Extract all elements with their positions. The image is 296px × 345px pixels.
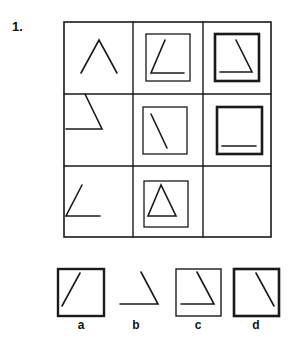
option-d-label: d (246, 318, 266, 332)
cell-r2c3-figure-icon (217, 107, 262, 154)
question-number: 1. (12, 19, 23, 34)
cell-r2c2-figure-icon (143, 107, 187, 154)
option-c-label: c (188, 318, 208, 332)
cell-r1c3-figure-icon (215, 34, 259, 81)
cell-r3c2-figure-icon (144, 181, 188, 227)
cell-r3c1-figure-icon (66, 185, 100, 216)
cell-r1c2-figure-icon (146, 34, 190, 81)
option-b-label: b (126, 318, 146, 332)
cell-r1c1-caret-icon (81, 40, 117, 73)
cell-r3c3-missing (203, 166, 272, 238)
puzzle-matrix (63, 21, 272, 238)
answer-options: a b c d (0, 260, 296, 345)
option-a-label: a (71, 318, 91, 332)
cell-r2c1-figure-icon (66, 94, 102, 129)
